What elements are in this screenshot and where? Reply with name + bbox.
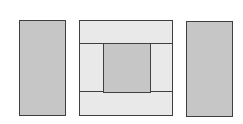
right-panel bbox=[186, 21, 233, 117]
left-panel bbox=[19, 20, 66, 116]
center-inner-square bbox=[103, 43, 151, 93]
